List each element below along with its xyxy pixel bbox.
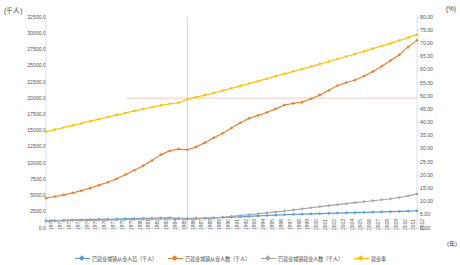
legend-marker-icon: [75, 255, 90, 261]
plot-area: [0, 0, 460, 265]
legend-marker-icon: [261, 255, 276, 261]
chart-container: (千人) (%) (年) 0.02500.05000.07500.010000.…: [0, 0, 460, 265]
legend-marker-icon: [168, 255, 183, 261]
legend-marker-icon: [354, 255, 369, 261]
data-series: [45, 33, 419, 133]
legend-label: 已就业城镇就业人数（千人）: [278, 255, 343, 262]
legend-item[interactable]: 已就业城镇从业人数（千人）: [168, 255, 250, 262]
axis-tick-marks: [44, 17, 419, 230]
data-series: [45, 193, 419, 223]
legend-item[interactable]: 已就业城镇就业人数（千人）: [261, 255, 343, 262]
legend-label: 就业率: [371, 255, 386, 262]
legend-label: 已就业城镇从业人数（千人）: [185, 255, 250, 262]
legend-item[interactable]: 就业率: [354, 255, 386, 262]
legend-label: 已就业城镇从业人员（千人）: [92, 255, 157, 262]
data-series: [45, 39, 419, 199]
chart-legend: 已就业城镇从业人员（千人）已就业城镇从业人数（千人）已就业城镇就业人数（千人）就…: [0, 252, 460, 264]
legend-item[interactable]: 已就业城镇从业人员（千人）: [75, 255, 157, 262]
axis-lines: [46, 17, 417, 228]
